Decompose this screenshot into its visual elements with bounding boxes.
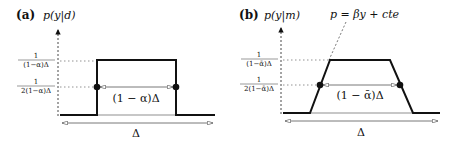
panel-a-ylabel: p(y|d) (43, 9, 76, 23)
panel-b-ylabel: p(y|m) (264, 9, 300, 23)
svg-text:1: 1 (257, 51, 261, 59)
panel-a-tick-half: 1 2(1−α)Δ (17, 78, 55, 95)
panel-b-density-curve (283, 60, 440, 113)
panel-b-slope-pointer (329, 22, 346, 60)
panel-b-tick-top: 1 (1−ᾱ)Δ (241, 51, 278, 68)
panel-a-density-curve (60, 60, 215, 115)
panel-a-support-label: Δ (132, 127, 140, 140)
panel-a-tag: (a) (16, 8, 35, 22)
diagram-canvas: (a) p(y|d) 1 (1−α)Δ 1 2(1−α)Δ (1 − α)Δ Δ (0, 0, 456, 144)
panel-a-tick-top: 1 (1−α)Δ (18, 52, 55, 69)
panel-b: (b) p(y|m) p = βy + cte 1 (1−ᾱ)Δ 1 2(1−ᾱ… (239, 8, 440, 139)
panel-a-left-dot (94, 84, 101, 91)
svg-text:(1−ᾱ)Δ: (1−ᾱ)Δ (246, 60, 272, 68)
panel-a-right-dot (173, 84, 180, 91)
panel-a: (a) p(y|d) 1 (1−α)Δ 1 2(1−α)Δ (1 − α)Δ Δ (16, 8, 215, 140)
panel-b-left-dot (317, 82, 324, 89)
panel-b-slope-annotation: p = βy + cte (330, 8, 400, 21)
panel-a-width-label: (1 − α)Δ (112, 92, 159, 105)
panel-b-tag: (b) (239, 8, 259, 22)
svg-text:1: 1 (34, 52, 38, 60)
svg-text:1: 1 (257, 76, 261, 84)
svg-text:1: 1 (34, 78, 38, 86)
svg-text:2(1−α)Δ: 2(1−α)Δ (21, 87, 51, 95)
panel-b-tick-half: 1 2(1−ᾱ)Δ (240, 76, 278, 93)
panel-b-right-dot (397, 82, 404, 89)
svg-text:2(1−ᾱ)Δ: 2(1−ᾱ)Δ (244, 85, 274, 93)
panel-b-support-label: Δ (357, 126, 365, 139)
panel-b-width-label: (1 − ᾱ)Δ (336, 89, 383, 102)
svg-text:(1−α)Δ: (1−α)Δ (23, 61, 49, 69)
